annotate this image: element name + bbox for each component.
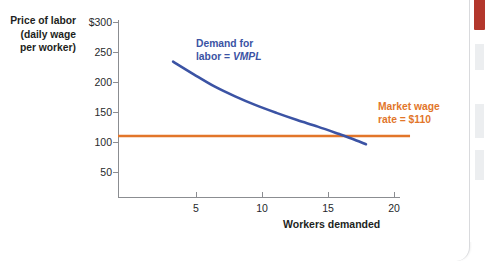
wage-annotation-line-2: rate = $110 (378, 113, 440, 126)
demand-annotation-vmpl: VMPL (233, 51, 262, 62)
rail-accent-bar (474, 0, 485, 30)
rail-placeholder-block (475, 44, 484, 70)
rail-placeholder-block (475, 150, 484, 180)
right-rail (470, 0, 485, 242)
demand-annotation-line-2: labor = VMPL (196, 50, 262, 63)
demand-annotation-line-1: Demand for (196, 37, 262, 50)
demand-for-labor-curve (173, 62, 366, 145)
demand-annotation-prefix: labor = (196, 51, 233, 62)
demand-curve-annotation: Demand for labor = VMPL (196, 37, 262, 63)
labor-demand-chart: $300 250 200 150 100 50 Price of labor (… (0, 0, 470, 242)
market-wage-annotation: Market wage rate = $110 (378, 100, 440, 126)
wage-annotation-line-1: Market wage (378, 100, 440, 113)
rail-placeholder-block (475, 104, 484, 138)
